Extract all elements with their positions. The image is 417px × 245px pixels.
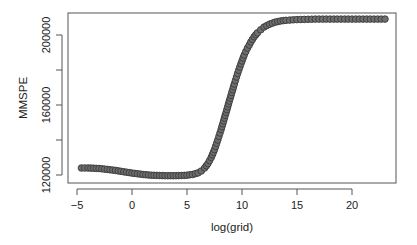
x-tick-label: −5 — [71, 199, 84, 211]
x-tick-label: 0 — [129, 199, 135, 211]
y-axis: 120000160000200000 — [40, 17, 62, 194]
x-axis: −505101520 — [71, 189, 358, 211]
x-tick-label: 10 — [236, 199, 248, 211]
x-axis-label: log(grid) — [211, 221, 253, 233]
data-point — [382, 16, 389, 23]
y-tick-label: 160000 — [40, 87, 52, 124]
chart-canvas: −505101520 120000160000200000 log(grid) … — [0, 0, 417, 245]
y-tick-label: 200000 — [40, 17, 52, 54]
x-tick-label: 20 — [346, 199, 358, 211]
y-axis-label: MMSPE — [17, 77, 29, 120]
x-tick-label: 15 — [291, 199, 303, 211]
y-tick-label: 120000 — [40, 157, 52, 194]
data-series — [78, 16, 388, 179]
x-tick-label: 5 — [184, 199, 190, 211]
